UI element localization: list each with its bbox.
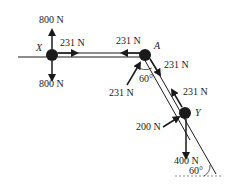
y-push-force-arrow xyxy=(163,117,179,127)
a-downslope-force-label: 231 N xyxy=(164,59,189,70)
y-push-force-label: 200 N xyxy=(136,121,161,132)
force-diagram: 800 N X 231 N 800 N 231 N A 231 N 60° 23… xyxy=(0,0,225,188)
point-x-ball xyxy=(46,49,58,61)
point-a-label: A xyxy=(153,40,161,51)
point-y-ball xyxy=(179,107,191,119)
point-y-label: Y xyxy=(195,107,202,118)
incline-angle-label: 60° xyxy=(189,165,203,176)
y-upslope-force-arrow xyxy=(172,90,182,107)
point-a-ball xyxy=(139,49,151,61)
x-down-force-label: 800 N xyxy=(39,78,64,89)
x-up-force-label: 800 N xyxy=(39,14,64,25)
incline-angle-arc xyxy=(204,165,210,176)
y-upslope-force-label: 231 N xyxy=(183,86,208,97)
point-x-label: X xyxy=(35,42,43,53)
a-push-force-label: 231 N xyxy=(109,87,134,98)
x-right-force-label: 231 N xyxy=(60,37,85,48)
a-left-force-label: 231 N xyxy=(116,35,141,46)
a-angle-label: 60° xyxy=(139,73,153,84)
